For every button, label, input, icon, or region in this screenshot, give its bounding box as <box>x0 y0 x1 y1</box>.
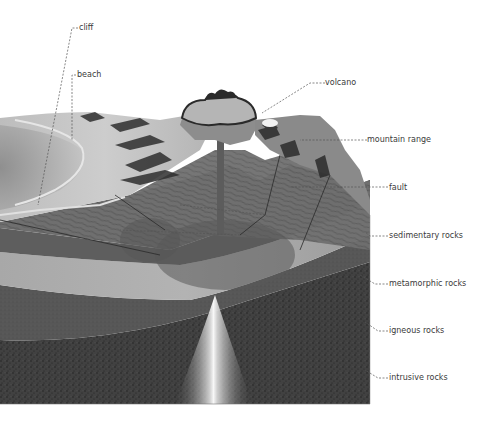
magma-chamber-left <box>120 218 180 262</box>
label-intrusive-rocks: intrusive rocks <box>389 373 448 383</box>
geology-diagram <box>0 0 488 426</box>
snow-peak <box>262 119 278 127</box>
label-metamorphic-rocks: metamorphic rocks <box>389 279 466 289</box>
label-sedimentary-rocks: sedimentary rocks <box>389 231 463 241</box>
label-fault: fault <box>389 183 407 193</box>
label-beach: beach <box>77 70 101 80</box>
label-mountain-range: mountain range <box>367 135 431 145</box>
label-cliff: cliff <box>79 23 93 33</box>
label-volcano: volcano <box>325 78 356 88</box>
label-igneous-rocks: igneous rocks <box>389 326 444 336</box>
